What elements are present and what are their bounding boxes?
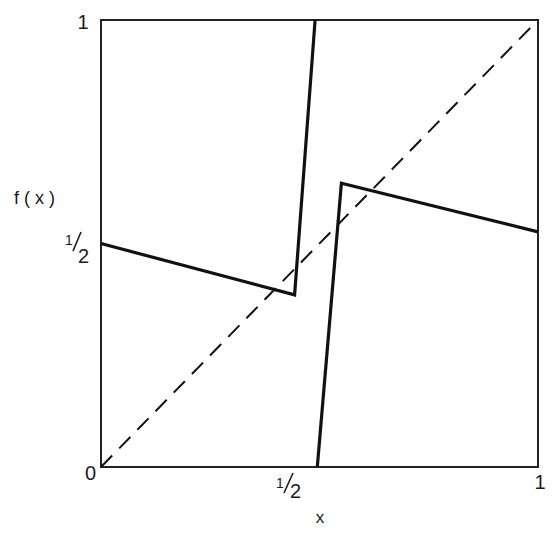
y-axis-label: f ( x ) [14, 188, 55, 208]
y-tick-half-label: 1 2 [65, 232, 89, 267]
svg-text:1: 1 [276, 475, 284, 491]
x-tick-half-label: 1 2 [276, 473, 301, 502]
series-group [101, 20, 538, 467]
function-branch-2 [317, 183, 538, 467]
svg-text:2: 2 [290, 480, 301, 502]
svg-text:1: 1 [65, 232, 73, 248]
function-branch-1 [101, 20, 315, 295]
x-axis-label: x [316, 508, 325, 527]
diagonal-dashed-line [101, 20, 538, 467]
x-tick-one-label: 1 [534, 471, 545, 493]
svg-text:2: 2 [78, 245, 89, 267]
origin-label: 0 [85, 462, 96, 484]
y-tick-one-label: 1 [77, 11, 88, 33]
chart: 0 1 2 1 x 1 1 2 f ( x ) [0, 0, 552, 540]
